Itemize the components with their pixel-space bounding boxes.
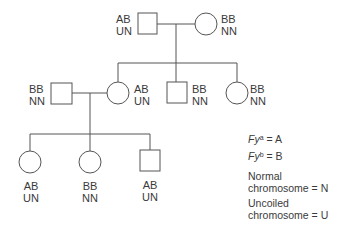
legend-fyb: Fyb = B xyxy=(248,150,283,162)
legend-normal: Normal chromosome = N xyxy=(248,170,328,194)
legend-fya: Fya = A xyxy=(248,133,282,145)
allele: b xyxy=(260,151,264,158)
genotype: BB xyxy=(221,13,237,25)
female-symbol-g3-daughter1 xyxy=(19,151,41,173)
chromosome: NN xyxy=(192,95,208,107)
genotype: AB xyxy=(134,83,150,95)
female-symbol-g2-daughter1 xyxy=(107,82,129,104)
genotype: BB xyxy=(250,83,266,95)
chromosome: UN xyxy=(134,95,150,107)
female-symbol-g1-mother xyxy=(195,13,217,35)
genotype: BB xyxy=(75,180,105,192)
chromosome: UN xyxy=(16,192,46,204)
label-g1-mother: BB NN xyxy=(221,13,237,37)
label-g1-father: AB UN xyxy=(116,13,132,37)
legend-line: chromosome = N xyxy=(248,182,328,194)
chromosome: NN xyxy=(29,95,45,107)
legend-line: Uncoiled xyxy=(248,197,328,209)
genotype: AB xyxy=(116,13,132,25)
gene-name: Fy xyxy=(248,133,260,145)
gene-name: Fy xyxy=(248,150,260,162)
legend-line: chromosome = U xyxy=(248,209,328,221)
legend-value: = A xyxy=(267,133,282,145)
male-symbol-g2-spouse xyxy=(51,83,72,104)
chromosome: UN xyxy=(135,191,165,203)
label-g3-daughter1: AB UN xyxy=(16,180,46,204)
legend-line: Normal xyxy=(248,170,328,182)
allele: a xyxy=(260,134,264,141)
label-g3-daughter2: BB NN xyxy=(75,180,105,204)
label-g3-son: AB UN xyxy=(135,179,165,203)
label-g2-daughter2: BB NN xyxy=(250,83,266,107)
genotype: BB xyxy=(29,83,45,95)
male-symbol-g2-son xyxy=(167,82,187,103)
label-g2-daughter1: AB UN xyxy=(134,83,150,107)
label-g2-son: BB NN xyxy=(192,83,208,107)
genotype: BB xyxy=(192,83,208,95)
label-g2-spouse: BB NN xyxy=(29,83,45,107)
chromosome: NN xyxy=(250,95,266,107)
genotype: AB xyxy=(135,179,165,191)
female-symbol-g3-daughter2 xyxy=(79,151,101,173)
chromosome: NN xyxy=(221,25,237,37)
male-symbol-g3-son xyxy=(140,150,160,171)
chromosome: UN xyxy=(116,25,132,37)
male-symbol-g1-father xyxy=(138,13,157,34)
chromosome: NN xyxy=(75,192,105,204)
legend-uncoiled: Uncoiled chromosome = U xyxy=(248,197,328,221)
legend-value: = B xyxy=(267,150,283,162)
genotype: AB xyxy=(16,180,46,192)
female-symbol-g2-daughter2 xyxy=(226,82,248,104)
